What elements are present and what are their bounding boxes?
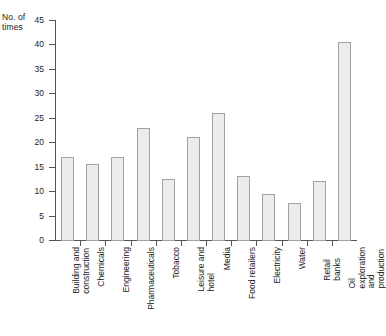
x-axis-tick: [307, 241, 308, 246]
x-axis-tick: [206, 241, 207, 246]
x-axis-tick: [282, 241, 283, 246]
x-axis-tick: [105, 241, 106, 246]
y-axis-tick: [49, 167, 55, 168]
y-axis-tick: [49, 191, 55, 192]
y-axis-tick: [49, 44, 55, 45]
y-axis-tick: [49, 216, 55, 217]
bar: [262, 194, 275, 241]
x-axis-category-label: Leisure and hotel: [197, 247, 216, 291]
bar: [61, 157, 74, 241]
x-axis-tick: [181, 241, 182, 246]
x-axis-tick: [256, 241, 257, 246]
bar: [137, 128, 150, 241]
y-axis-tick: [49, 118, 55, 119]
y-axis-tick: [49, 69, 55, 70]
x-axis-category-label: Oil exploration and production: [348, 247, 386, 289]
x-axis-category-label: Chemicals: [97, 247, 107, 287]
x-axis-category-label: Tobacco: [172, 247, 182, 279]
y-axis-tick-label: 40: [24, 40, 44, 49]
y-axis-tick-label: 15: [24, 163, 44, 172]
x-axis-tick: [80, 241, 81, 246]
x-axis-category-label: Building and construction: [72, 247, 91, 294]
bar: [212, 113, 225, 241]
bar: [237, 176, 250, 241]
bar: [338, 42, 351, 241]
x-axis-category-label: Pharmaceuticals: [147, 247, 157, 310]
y-axis-tick-label: 35: [24, 65, 44, 74]
y-axis-tick: [49, 20, 55, 21]
y-axis-tick: [49, 142, 55, 143]
y-axis-line: [55, 20, 56, 241]
x-axis-tick: [131, 241, 132, 246]
y-axis-tick-label: 45: [24, 16, 44, 25]
bar: [162, 179, 175, 241]
x-axis-label-group: Building and constructionChemicalsEngine…: [55, 247, 357, 336]
y-axis-tick-label: 5: [24, 212, 44, 221]
bar: [111, 157, 124, 241]
x-axis-tick: [332, 241, 333, 246]
plot-area: 051015202530354045: [55, 20, 357, 240]
x-axis-category-label: Food retailers: [248, 247, 258, 299]
y-axis-tick-label: 0: [24, 236, 44, 245]
x-axis-category-label: Electricity: [273, 247, 283, 283]
x-axis-category-label: Water: [298, 247, 308, 269]
x-axis-tick: [156, 241, 157, 246]
y-axis-tick-label: 30: [24, 89, 44, 98]
y-axis-tick: [49, 93, 55, 94]
y-axis-title: No. of times: [2, 12, 25, 32]
bar: [187, 137, 200, 241]
y-axis-tick-label: 10: [24, 187, 44, 196]
y-axis-tick: [49, 240, 55, 241]
bar: [86, 164, 99, 241]
x-axis-tick: [231, 241, 232, 246]
y-axis-tick-label: 25: [24, 114, 44, 123]
x-axis-category-label: Engineering: [122, 247, 132, 292]
bar: [313, 181, 326, 241]
y-axis-tick-label: 20: [24, 138, 44, 147]
x-axis-category-label: Retail banks: [323, 247, 342, 281]
bar: [288, 203, 301, 241]
x-axis-category-label: Media: [223, 247, 233, 270]
